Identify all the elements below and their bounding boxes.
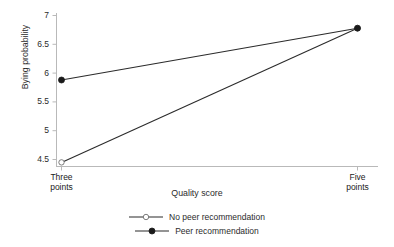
x-tick-marks — [62, 167, 358, 171]
series-no-peer-recommendation — [59, 25, 360, 165]
legend-item-peer-recommendation: Peer recommendation — [135, 225, 259, 237]
data-point-peer-three — [59, 77, 65, 83]
data-point-peer-five — [355, 25, 361, 31]
legend-label-peer-recommendation: Peer recommendation — [175, 227, 259, 236]
plot-area — [0, 0, 394, 247]
chart-figure: 7 6.5 6 5.5 5 4.5 Three points Five poin… — [0, 0, 394, 247]
chart-legend: No peer recommendation Peer recommendati… — [0, 211, 394, 237]
legend-key-open-circle-icon — [129, 211, 163, 223]
data-point-no-peer-three — [59, 160, 64, 165]
y-tick-marks — [53, 16, 57, 160]
series-line-peer — [62, 28, 358, 80]
legend-key-filled-circle-icon — [135, 225, 169, 237]
legend-label-no-peer-recommendation: No peer recommendation — [169, 213, 265, 222]
y-tick-label-5: 5 — [20, 126, 49, 135]
y-tick-label-4-5: 4.5 — [20, 155, 49, 164]
y-axis-title: Bying probability — [20, 0, 30, 122]
series-peer-recommendation — [59, 25, 361, 83]
legend-item-no-peer-recommendation: No peer recommendation — [129, 211, 265, 223]
series-line-no-peer — [62, 28, 358, 162]
x-axis-title: Quality score — [0, 188, 394, 198]
